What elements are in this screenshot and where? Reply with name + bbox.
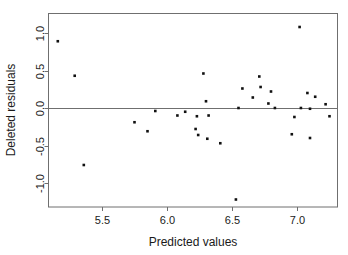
y-tick-label: -0.5	[34, 137, 46, 156]
data-point	[205, 100, 208, 103]
data-point	[274, 107, 277, 110]
data-point	[267, 102, 270, 105]
data-point	[300, 107, 303, 110]
data-point	[291, 133, 294, 136]
data-point	[207, 114, 210, 117]
x-tick-label: 5.5	[95, 214, 110, 226]
data-point	[258, 75, 261, 78]
scatter-plot-figure: 5.56.06.57.0 1.00.50.0-0.5-1.0 Predicted…	[0, 0, 348, 255]
data-point	[293, 116, 296, 119]
data-point	[146, 130, 149, 133]
data-point	[328, 115, 331, 118]
data-point	[309, 137, 312, 140]
data-point	[184, 110, 187, 113]
data-point	[219, 142, 222, 145]
data-point	[237, 107, 240, 110]
data-point	[259, 86, 262, 89]
data-point	[154, 110, 157, 113]
data-point	[252, 96, 255, 99]
x-tick-label: 6.0	[160, 214, 175, 226]
plot-canvas: 5.56.06.57.0 1.00.50.0-0.5-1.0 Predicted…	[0, 0, 348, 255]
data-point	[202, 72, 205, 75]
data-point	[270, 90, 273, 93]
x-tick-label: 7.0	[290, 214, 305, 226]
data-point	[241, 87, 244, 90]
data-point	[306, 92, 309, 95]
x-axis-label: Predicted values	[149, 235, 238, 249]
data-point	[83, 164, 86, 167]
y-axis-label: Deleted residuals	[4, 64, 18, 157]
y-tick-label: 1.0	[34, 26, 46, 41]
data-point	[314, 95, 317, 98]
x-tick-label: 6.5	[225, 214, 240, 226]
data-point	[235, 198, 238, 201]
data-point	[133, 121, 136, 124]
data-point	[196, 115, 199, 118]
data-point	[197, 134, 200, 137]
data-point	[309, 107, 312, 110]
data-point	[57, 40, 60, 43]
y-tick-label: -1.0	[34, 174, 46, 193]
data-point	[206, 137, 209, 140]
data-point	[324, 103, 327, 106]
data-point	[194, 128, 197, 131]
y-tick-label: 0.5	[34, 64, 46, 79]
data-point	[73, 74, 76, 77]
data-point	[298, 26, 301, 29]
data-point	[176, 114, 179, 117]
y-tick-label: 0.0	[34, 101, 46, 116]
